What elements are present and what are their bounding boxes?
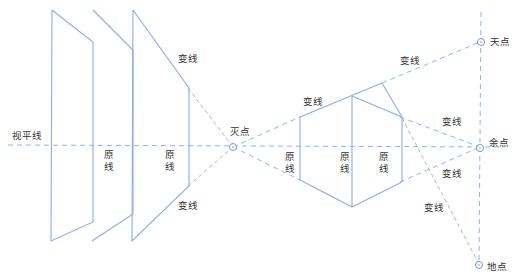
line-to-remaining-point-upper	[400, 117, 480, 147]
remaining-point-label: 余点	[489, 137, 509, 148]
perspective-diagram	[0, 0, 519, 279]
left-original-line-2-label: 原线	[165, 149, 175, 173]
right-original-line-1-label: 原线	[285, 151, 295, 175]
right-change-line-top-left-label: 变线	[303, 96, 323, 107]
right-change-line-low-label: 变线	[442, 168, 462, 179]
left-original-line-1-label: 原线	[104, 149, 114, 173]
vanishing-point-label: 灭点	[230, 126, 250, 137]
right-original-line-3-label: 原线	[379, 151, 389, 175]
left-panels	[51, 10, 189, 241]
right-change-line-mid-label: 变线	[442, 116, 462, 127]
horizon-line	[8, 145, 505, 147]
vertical-axis-line	[479, 12, 481, 264]
line-to-sky-point	[382, 42, 480, 83]
line-to-remaining-point-lower	[400, 147, 480, 182]
right-change-line-top-right-label: 变线	[400, 55, 420, 66]
convergence-line-lower	[188, 147, 233, 186]
right-original-line-2-label: 原线	[340, 151, 350, 175]
left-change-line-bottom-label: 变线	[178, 200, 198, 211]
right-change-line-bottom-label: 变线	[424, 202, 444, 213]
sky-point-label: 天点	[490, 36, 510, 47]
ground-point-label: 地点	[487, 261, 507, 272]
left-change-line-top-label: 变线	[178, 53, 198, 64]
horizon-line-label: 视平线	[12, 130, 42, 141]
convergence-line-upper	[188, 88, 233, 147]
line-to-ground-point	[402, 118, 479, 264]
